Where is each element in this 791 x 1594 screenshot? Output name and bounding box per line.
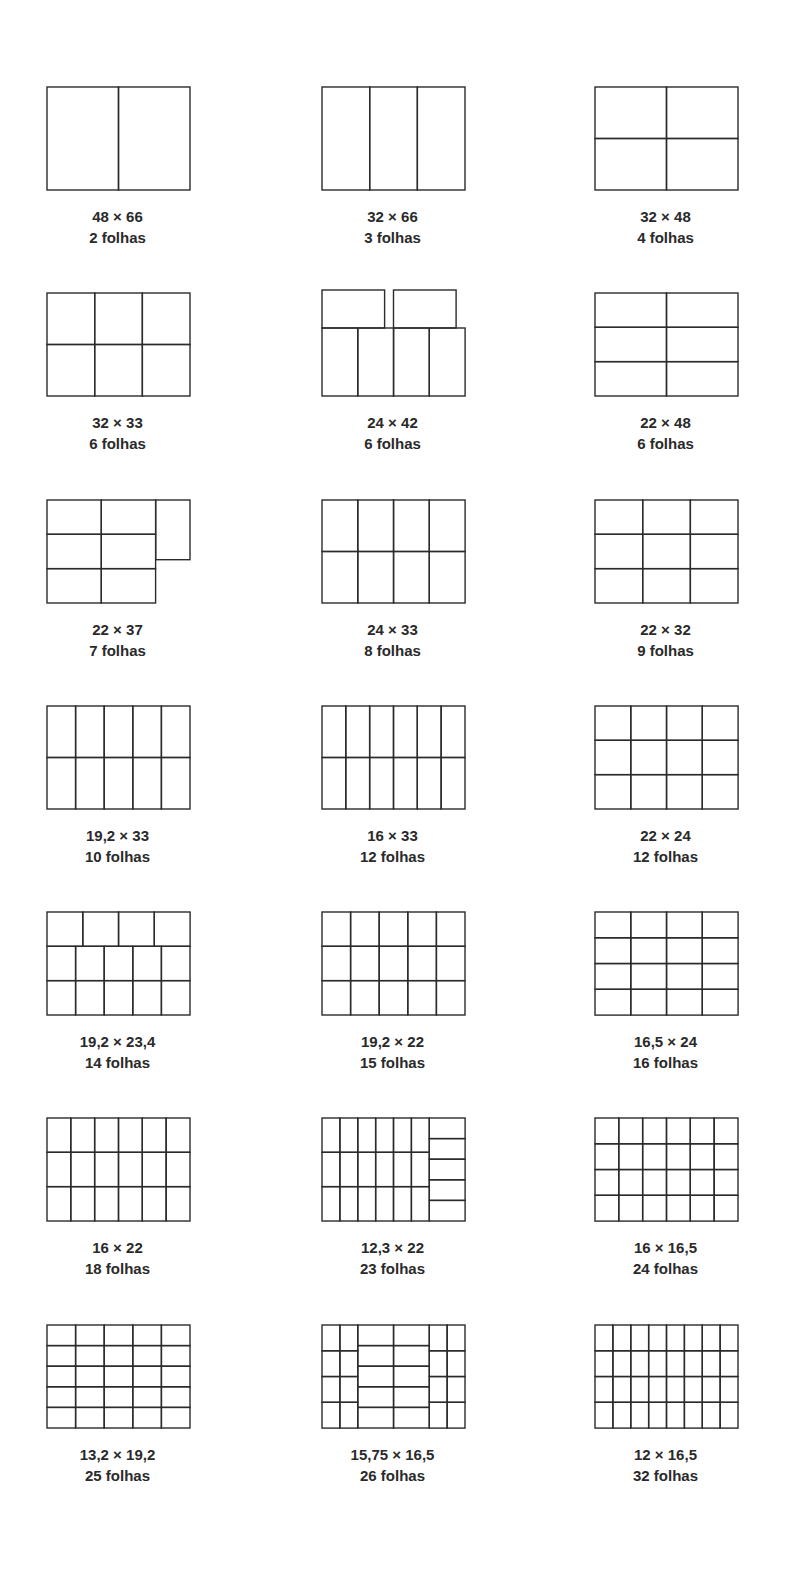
sheet-rect xyxy=(619,1170,643,1196)
sheet-count-label: 12 folhas xyxy=(303,846,483,867)
sheet-rect xyxy=(351,946,380,980)
sheet-rect xyxy=(376,1187,394,1221)
layout-caption: 24 × 426 folhas xyxy=(303,412,483,454)
sheet-rect xyxy=(667,1402,685,1428)
sheet-rect xyxy=(631,989,667,1015)
sheet-count-label: 9 folhas xyxy=(576,640,756,661)
layout-caption: 22 × 486 folhas xyxy=(576,412,756,454)
layout-cell: 32 × 336 folhas xyxy=(28,287,208,454)
sheet-rect xyxy=(595,706,631,740)
layout-caption: 12,3 × 2223 folhas xyxy=(303,1237,483,1279)
sheet-rect xyxy=(47,1187,71,1221)
sheet-rect xyxy=(376,1152,394,1186)
sheet-rect xyxy=(340,1152,358,1186)
sheet-rect xyxy=(322,1187,340,1221)
sheet-rect xyxy=(429,500,465,552)
sheet-rect xyxy=(322,946,351,980)
sheet-rect xyxy=(161,1366,190,1387)
sheet-rect xyxy=(351,981,380,1015)
sheet-rect xyxy=(429,1180,465,1201)
sheet-rect xyxy=(667,362,739,396)
sheet-layout-figure xyxy=(594,700,739,811)
sheet-rect xyxy=(358,552,394,604)
sheet-rect xyxy=(667,1170,691,1196)
sheet-rect xyxy=(340,1325,358,1351)
sheet-rect xyxy=(643,1144,667,1170)
layout-cell: 12 × 16,532 folhas xyxy=(576,1319,756,1486)
sheet-rect xyxy=(142,1118,166,1152)
sheet-rect xyxy=(667,1377,685,1403)
sheet-rect xyxy=(47,1407,76,1428)
sheet-layout-figure xyxy=(594,1112,739,1223)
sheet-rect xyxy=(104,1346,133,1367)
sheet-rect xyxy=(667,1118,691,1144)
sheet-size-label: 12 × 16,5 xyxy=(576,1444,756,1465)
sheet-rect xyxy=(394,1387,430,1408)
sheet-rect xyxy=(95,293,143,345)
sheet-rect xyxy=(95,345,143,397)
sheet-count-label: 12 folhas xyxy=(576,846,756,867)
layout-cell: 22 × 377 folhas xyxy=(28,494,208,661)
sheet-rect xyxy=(161,981,190,1015)
sheet-rect xyxy=(595,500,643,534)
sheet-size-label: 32 × 48 xyxy=(576,206,756,227)
sheet-rect xyxy=(358,1407,394,1428)
sheet-rect xyxy=(47,1366,76,1387)
layout-cell: 32 × 663 folhas xyxy=(303,81,483,248)
layout-caption: 16 × 16,524 folhas xyxy=(576,1237,756,1279)
sheet-rect xyxy=(346,758,370,810)
sheet-rect xyxy=(595,775,631,809)
sheet-rect xyxy=(76,981,105,1015)
sheet-rect xyxy=(429,1325,447,1351)
sheet-rect xyxy=(667,1195,691,1221)
sheet-rect xyxy=(714,1195,738,1221)
sheet-rect xyxy=(429,1139,465,1160)
sheet-rect xyxy=(47,1387,76,1408)
sheet-rect xyxy=(322,1402,340,1428)
sheet-rect xyxy=(95,1187,119,1221)
sheet-rect xyxy=(702,1402,720,1428)
sheet-count-label: 15 folhas xyxy=(303,1052,483,1073)
sheet-rect xyxy=(720,1351,738,1377)
sheet-layout-figure xyxy=(46,1319,191,1430)
sheet-rect xyxy=(379,981,408,1015)
sheet-size-label: 24 × 33 xyxy=(303,619,483,640)
sheet-rect xyxy=(720,1325,738,1351)
sheet-rect xyxy=(322,1377,340,1403)
sheet-rect xyxy=(595,1402,613,1428)
sheet-rect xyxy=(595,534,643,568)
sheet-rect xyxy=(411,1118,429,1152)
sheet-rect xyxy=(119,1118,143,1152)
sheet-rect xyxy=(429,1200,465,1221)
sheet-rect xyxy=(595,362,667,396)
sheet-rect xyxy=(643,1195,667,1221)
sheet-rect xyxy=(394,552,430,604)
sheet-rect xyxy=(595,1118,619,1144)
layout-caption: 22 × 329 folhas xyxy=(576,619,756,661)
sheet-rect xyxy=(394,1346,430,1367)
layout-caption: 32 × 663 folhas xyxy=(303,206,483,248)
sheet-size-label: 19,2 × 33 xyxy=(28,825,208,846)
sheet-rect xyxy=(702,1377,720,1403)
sheet-layout-figure xyxy=(594,287,739,398)
sheet-rect xyxy=(101,534,155,568)
sheet-rect xyxy=(142,1187,166,1221)
sheet-rect xyxy=(358,1118,376,1152)
sheet-count-label: 7 folhas xyxy=(28,640,208,661)
sheet-rect xyxy=(76,1387,105,1408)
sheet-rect xyxy=(595,1351,613,1377)
sheet-rect xyxy=(104,1407,133,1428)
sheet-count-label: 23 folhas xyxy=(303,1258,483,1279)
sheet-rect xyxy=(142,293,190,345)
sheet-count-label: 24 folhas xyxy=(576,1258,756,1279)
sheet-layout-figure xyxy=(46,906,191,1017)
sheet-rect xyxy=(161,758,190,810)
sheet-rect xyxy=(619,1118,643,1144)
sheet-rect xyxy=(394,328,430,396)
sheet-size-label: 13,2 × 19,2 xyxy=(28,1444,208,1465)
sheet-rect xyxy=(649,1377,667,1403)
sheet-rect xyxy=(417,758,441,810)
sheet-rect xyxy=(429,1377,447,1403)
sheet-rect xyxy=(322,912,351,946)
sheet-rect xyxy=(595,964,631,990)
